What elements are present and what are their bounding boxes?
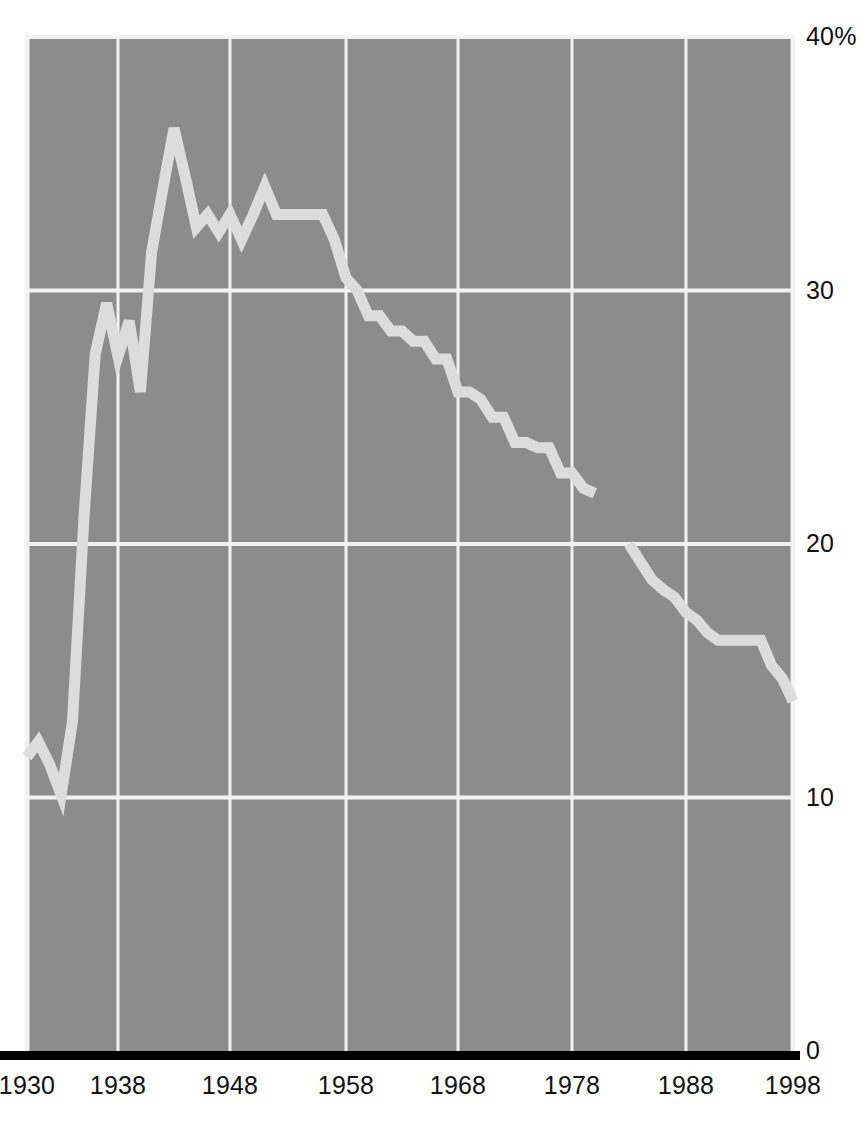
x-axis-line	[0, 1051, 800, 1060]
y-tick-label-40: 40%	[806, 24, 857, 49]
x-tick-label-1948: 1948	[202, 1073, 258, 1098]
x-tick-label-1938: 1938	[90, 1073, 146, 1098]
line-chart	[0, 0, 866, 1131]
chart-container: 010203040% 19301938194819581968197819881…	[0, 0, 866, 1131]
y-tick-label-0: 0	[806, 1038, 820, 1063]
x-tick-label-1958: 1958	[318, 1073, 374, 1098]
x-tick-label-1998: 1998	[765, 1073, 821, 1098]
y-tick-label-20: 20	[806, 531, 834, 556]
x-tick-label-1930: 1930	[0, 1073, 55, 1098]
y-tick-label-30: 30	[806, 278, 834, 303]
x-tick-label-1978: 1978	[544, 1073, 600, 1098]
y-tick-label-10: 10	[806, 785, 834, 810]
x-axis-group	[0, 1051, 800, 1060]
x-tick-label-1988: 1988	[658, 1073, 714, 1098]
x-tick-label-1968: 1968	[430, 1073, 486, 1098]
